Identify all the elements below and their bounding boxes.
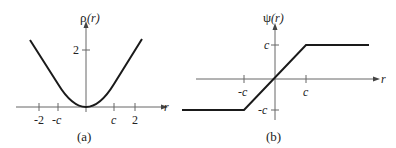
ytick-label-neg-c: -c <box>258 103 268 117</box>
y-axis-label-arg: (r) <box>87 11 100 25</box>
xtick-label-c: c <box>111 113 117 127</box>
xtick-label-c: c <box>303 85 309 99</box>
caption-a: (a) <box>77 129 91 144</box>
xtick-label-neg-c: -c <box>238 85 248 99</box>
caption-b: (b) <box>266 129 281 144</box>
panel-b-psi: ψ (r) r -c c c -c (b) <box>182 10 386 144</box>
x-axis-label: r <box>381 72 386 86</box>
xtick-label-neg2: -2 <box>34 113 44 127</box>
ytick-label-c: c <box>264 38 270 52</box>
x-axis-arrow-icon <box>373 77 380 82</box>
ytick-label-2: 2 <box>73 43 79 57</box>
y-axis-label-arg: (r) <box>271 11 284 25</box>
y-axis-label-fn: ρ <box>80 10 87 25</box>
y-axis-label-fn: ψ <box>263 10 271 25</box>
figure: ρ (r) r -2 -c c 2 2 (a) ψ (r) r -c c c -… <box>0 0 396 148</box>
panel-a-rho: ρ (r) r -2 -c c 2 2 (a) <box>16 10 169 144</box>
xtick-label-2: 2 <box>132 113 138 127</box>
xtick-label-neg-c: -c <box>52 113 62 127</box>
x-axis-label: r <box>164 100 169 114</box>
